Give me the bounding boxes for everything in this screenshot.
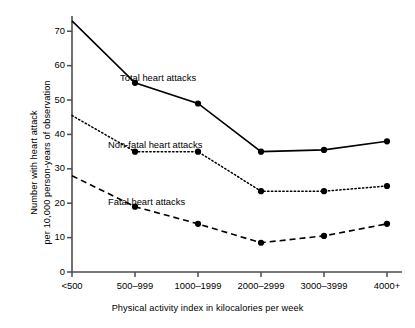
series-line-0	[72, 21, 387, 152]
y-axis-tick-label: 10	[20, 231, 65, 242]
x-axis-title: Physical activity index in kilocalories …	[0, 303, 415, 313]
x-axis-tick-label: 4000+	[347, 280, 415, 291]
y-axis-tick-label: 0	[20, 266, 65, 277]
data-series-group	[72, 21, 390, 246]
data-point-marker	[384, 183, 390, 189]
data-point-marker	[258, 240, 264, 246]
data-point-marker	[321, 188, 327, 194]
y-axis-tick-label: 60	[20, 59, 65, 70]
data-point-marker	[195, 100, 201, 106]
data-point-marker	[384, 138, 390, 144]
series-label-0: Total heart attacks	[120, 72, 196, 83]
data-point-marker	[258, 188, 264, 194]
y-axis-tick-label: 20	[20, 197, 65, 208]
series-label-2: Fatal heart attacks	[108, 196, 185, 207]
y-axis-tick-label: 70	[20, 25, 65, 36]
heart-attack-activity-chart: Number with heart attack per 10,000 pers…	[0, 0, 415, 328]
y-axis-tick-label: 50	[20, 94, 65, 105]
series-line-2	[72, 176, 387, 243]
data-point-marker	[384, 221, 390, 227]
series-label-1: Non-fatal heart attacks	[108, 139, 202, 150]
data-point-marker	[258, 149, 264, 155]
data-point-marker	[321, 147, 327, 153]
data-point-marker	[195, 221, 201, 227]
y-axis-tick-label: 40	[20, 128, 65, 139]
y-axis-tick-label: 30	[20, 162, 65, 173]
data-point-marker	[321, 233, 327, 239]
